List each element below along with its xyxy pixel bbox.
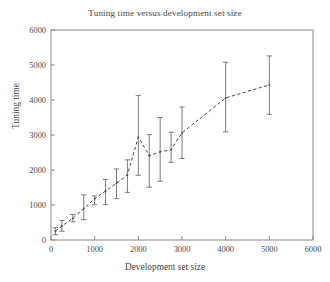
svg-text:4000: 4000 [29,96,46,105]
svg-text:2000: 2000 [29,166,46,175]
x-tick-labels: 0100020003000400050006000 [49,245,321,254]
svg-text:2000: 2000 [130,245,147,254]
data-markers [54,84,270,232]
svg-text:3000: 3000 [174,245,191,254]
data-line [55,85,269,231]
y-axis-ticks [51,30,55,240]
svg-text:1000: 1000 [86,245,103,254]
svg-text:0: 0 [42,236,46,245]
svg-text:1000: 1000 [29,201,46,210]
svg-text:0: 0 [49,245,53,254]
chart-figure: Tuning time versus development set size … [0,0,330,282]
x-axis-ticks [51,236,313,240]
svg-text:6000: 6000 [29,26,46,35]
svg-text:5000: 5000 [29,61,46,70]
y-tick-labels: 0100020003000400050006000 [29,26,46,245]
svg-text:4000: 4000 [217,245,234,254]
svg-text:6000: 6000 [305,245,322,254]
plot-area: 0100020003000400050006000 01000200030004… [0,0,330,282]
svg-text:3000: 3000 [29,131,46,140]
svg-text:5000: 5000 [261,245,278,254]
error-bars [53,56,272,235]
